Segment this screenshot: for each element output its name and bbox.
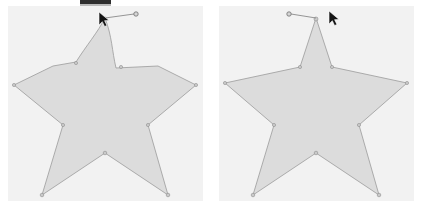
vertex-inner-lower-left[interactable]: [272, 123, 275, 126]
vertex-inner-bottom[interactable]: [103, 151, 107, 155]
vertex-outer-right[interactable]: [194, 83, 197, 86]
rotation-handle-right[interactable]: [287, 12, 316, 18]
rotation-handle-knob[interactable]: [134, 12, 138, 16]
screenshot-root: [0, 0, 422, 207]
vertex-inner-upper-right[interactable]: [330, 65, 333, 68]
arrow-pointer-icon: [329, 11, 339, 26]
vertex-inner-bottom[interactable]: [314, 151, 318, 155]
panel-container: [0, 0, 422, 207]
vertex-inner-lower-right[interactable]: [357, 123, 360, 126]
vertex-outer-bottom-left[interactable]: [251, 193, 255, 197]
vertex-outer-left[interactable]: [12, 83, 15, 86]
canvas-left[interactable]: [8, 6, 203, 201]
vertex-outer-bottom-right[interactable]: [166, 193, 170, 197]
star-shape-sharp-top[interactable]: [225, 18, 407, 195]
rotation-handle-line: [291, 14, 316, 18]
vertex-inner-lower-left[interactable]: [61, 123, 64, 126]
vertex-inner-upper-left[interactable]: [74, 61, 77, 64]
vertex-inner-upper-left[interactable]: [298, 65, 301, 68]
vertex-inner-lower-right[interactable]: [146, 123, 149, 126]
rotate-cursor: [329, 11, 339, 26]
star-shape-rounded-top[interactable]: [14, 18, 196, 195]
vertex-outer-right[interactable]: [405, 81, 408, 84]
vertex-outer-bottom-left[interactable]: [40, 193, 44, 197]
rotation-handle-line: [105, 14, 134, 18]
vertex-outer-bottom-right[interactable]: [377, 193, 381, 197]
rotation-handle-left[interactable]: [105, 12, 138, 18]
vertex-inner-upper-right[interactable]: [119, 65, 122, 68]
rotation-handle-knob[interactable]: [287, 12, 291, 16]
canvas-right[interactable]: [219, 6, 414, 201]
vertex-outer-left[interactable]: [223, 81, 226, 84]
